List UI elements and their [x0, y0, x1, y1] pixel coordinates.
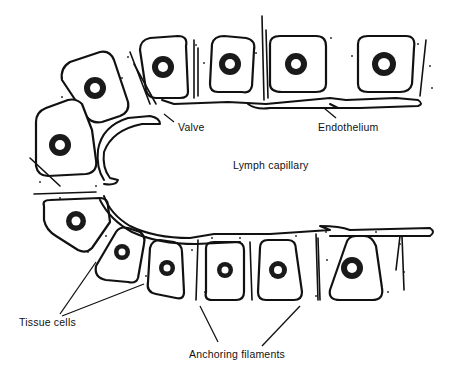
upper-endothelium — [162, 98, 421, 108]
lower-endothelium — [104, 196, 433, 238]
valve-flap — [98, 116, 160, 185]
label-anchoring-filaments: Anchoring filaments — [189, 348, 285, 360]
filaments-leader-1 — [200, 306, 218, 342]
label-lymph-capillary: Lymph capillary — [233, 159, 309, 171]
upper-tissue-cells — [36, 36, 414, 176]
endothelium-leader — [324, 108, 336, 118]
lymph-capillary-diagram: Valve Endothelium Lymph capillary Tissue… — [0, 0, 451, 373]
label-valve: Valve — [178, 121, 205, 133]
lower-tissue-cells — [44, 198, 383, 300]
valve-leader — [164, 114, 174, 122]
label-endothelium: Endothelium — [318, 121, 379, 133]
capillary-wall — [98, 98, 433, 244]
tissue-cells-leader-2 — [62, 284, 144, 316]
filaments-leader-2 — [262, 306, 300, 346]
label-tissue-cells: Tissue cells — [19, 316, 76, 328]
tissue-cells-leader-1 — [60, 262, 96, 314]
